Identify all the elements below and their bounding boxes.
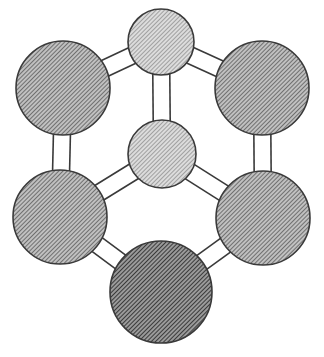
atom-top-center <box>128 9 194 75</box>
molecule-diagram <box>0 0 324 357</box>
atom-bottom-right <box>216 171 310 265</box>
atom-top-left <box>16 41 110 135</box>
atoms-layer <box>13 9 310 343</box>
atom-bottom-center <box>110 241 212 343</box>
atom-top-right <box>215 41 309 135</box>
atom-bottom-left <box>13 170 107 264</box>
atom-middle-center <box>128 120 196 188</box>
